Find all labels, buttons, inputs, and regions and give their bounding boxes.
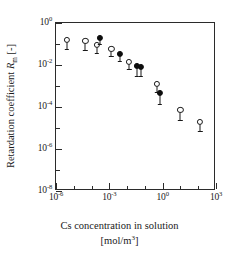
y-axis-tick	[56, 23, 62, 24]
y-axis-title: Retardation coefficient Rm [-]	[4, 22, 18, 190]
error-bar-cap	[178, 120, 182, 121]
marker	[97, 35, 103, 41]
x-axis-minor-tick	[127, 186, 128, 190]
y-axis-tick	[56, 149, 62, 150]
marker	[108, 46, 114, 52]
marker	[157, 90, 163, 96]
marker	[64, 37, 70, 43]
error-bar-cap	[139, 76, 143, 77]
error-bar-cap	[198, 131, 202, 132]
x-axis-title-line1: Cs concentration in solution	[0, 218, 239, 233]
plot-area	[56, 23, 214, 189]
x-axis-tick-label: 100	[157, 193, 169, 203]
marker	[153, 81, 159, 87]
x-axis-minor-tick	[74, 186, 75, 190]
marker	[82, 38, 88, 44]
y-axis-minor-tick	[56, 170, 60, 171]
error-bar-cap	[95, 53, 99, 54]
y-axis-title-subscript: m	[11, 57, 19, 63]
error-bar-cap	[83, 50, 87, 51]
marker	[177, 107, 183, 113]
error-bar-cap	[109, 56, 113, 57]
x-axis-title: Cs concentration in solution [mol/m3]	[0, 218, 239, 248]
y-axis-title-symbol: R	[5, 63, 16, 69]
y-axis-title-prefix: Retardation coefficient	[5, 69, 16, 168]
x-axis-unit-prefix: [mol/m	[101, 235, 132, 246]
marker	[138, 64, 144, 70]
figure: Retardation coefficient Rm [-] 10010-210…	[0, 0, 239, 263]
error-bar-cap	[98, 44, 102, 45]
y-axis-minor-tick	[56, 128, 60, 129]
y-axis-tick-label: 10-2	[38, 60, 52, 70]
x-axis-minor-tick	[145, 186, 146, 190]
x-axis-tick	[216, 183, 217, 189]
x-axis-tick	[109, 183, 110, 189]
error-bar-cap	[158, 104, 162, 105]
x-axis-minor-tick	[198, 186, 199, 190]
x-axis-tick-label: 10-6	[49, 193, 63, 203]
y-axis-tick-label: 100	[40, 18, 52, 28]
x-axis-minor-tick	[180, 186, 181, 190]
y-axis-tick	[56, 65, 62, 66]
x-axis-tick	[163, 183, 164, 189]
y-axis-title-suffix: [-]	[5, 44, 16, 57]
y-axis-tick-label: 10-6	[38, 144, 52, 154]
error-bar-cap	[65, 49, 69, 50]
x-axis-minor-tick	[92, 186, 93, 190]
marker	[117, 50, 123, 56]
plot-frame: 10010-210-410-610-810-610-3100103	[55, 22, 215, 190]
x-axis-tick-label: 10-3	[102, 193, 116, 203]
error-bar-cap	[118, 61, 122, 62]
x-axis-tick	[56, 183, 57, 189]
error-bar-cap	[127, 69, 131, 70]
y-axis-tick	[56, 107, 62, 108]
x-axis-unit-suffix: ]	[135, 235, 139, 246]
marker	[197, 119, 203, 125]
y-axis-minor-tick	[56, 86, 60, 87]
marker	[126, 59, 132, 65]
y-axis-minor-tick	[56, 44, 60, 45]
x-axis-title-line2: [mol/m3]	[0, 233, 239, 248]
y-axis-tick-label: 10-4	[38, 102, 52, 112]
x-axis-tick-label: 103	[210, 193, 222, 203]
